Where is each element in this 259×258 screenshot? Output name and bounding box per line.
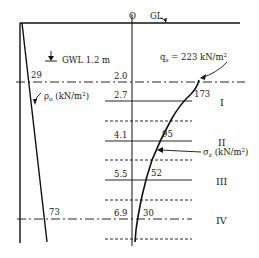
depth-label-1: 2.0 [114, 71, 128, 81]
depth-label-2: 2.7 [114, 90, 128, 100]
stress-value-2: 95 [162, 129, 173, 139]
gwl-arrow-icon [48, 56, 54, 61]
overburden-value-1: 29 [31, 70, 42, 80]
stress-value-4: 30 [143, 208, 154, 218]
overburden-pressure-label: ρo (kN/m2) [44, 91, 89, 102]
origin-label: O [129, 11, 136, 21]
layer-label-1: I [220, 97, 224, 108]
stress-value-1: 173 [194, 89, 210, 99]
overburden-pressure-line [22, 23, 47, 242]
layer-label-4: IV [216, 215, 227, 226]
surface-load-label: qs = 223 kN/m2 [160, 52, 227, 63]
sigma-leader-line [160, 150, 201, 152]
layer-label-2: II [218, 137, 226, 148]
depth-label-5: 6.9 [114, 208, 128, 218]
vertical-stress-label: σz (kN/m2) [203, 147, 248, 158]
ground-level-label: GL [150, 11, 163, 21]
layer-label-3: III [216, 176, 228, 187]
depth-label-3: 4.1 [114, 130, 128, 140]
stress-distribution-diagram: O GL GWL 1.2 m qs = 223 kN/m2 ρo (kN/m2)… [0, 0, 259, 258]
overburden-value-2: 73 [49, 207, 60, 217]
gwl-label: GWL 1.2 m [62, 55, 110, 65]
qs-arrow-icon [200, 74, 206, 80]
depth-label-4: 5.5 [114, 169, 128, 179]
rho-arrow-icon [33, 99, 37, 105]
stress-value-3: 52 [151, 168, 162, 178]
